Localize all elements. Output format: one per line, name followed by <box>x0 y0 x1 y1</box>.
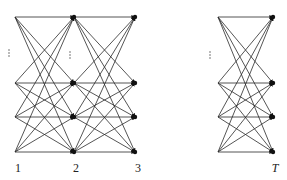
state-node <box>133 115 137 119</box>
state-node <box>72 15 76 19</box>
state-node <box>72 150 76 154</box>
state-node <box>72 115 76 119</box>
state-node <box>271 115 275 119</box>
vertical-ellipsis-icon <box>8 49 9 56</box>
vertical-ellipsis-icon <box>209 51 210 58</box>
stage-label: 1 <box>15 161 21 175</box>
edges <box>15 17 273 152</box>
stage-label: 3 <box>135 161 141 175</box>
stage-labels: 123T <box>15 161 280 175</box>
state-node <box>133 81 137 85</box>
vertical-ellipsis-icon <box>69 51 70 58</box>
trellis-diagram: 123T <box>0 0 287 180</box>
state-node <box>271 15 275 19</box>
state-node <box>271 150 275 154</box>
stage-label: 2 <box>73 161 79 175</box>
state-node <box>72 81 76 85</box>
state-node <box>133 150 137 154</box>
state-node <box>133 15 137 19</box>
stage-label: T <box>272 161 280 175</box>
state-node <box>271 81 275 85</box>
